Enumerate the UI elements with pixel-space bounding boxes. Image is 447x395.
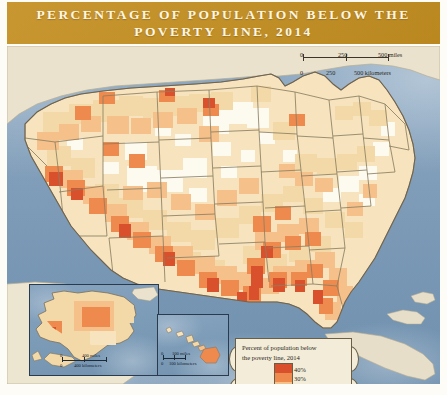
legend-label-30: 30% (294, 375, 306, 382)
scale-bar-hawaii: 0 100 miles 0 100 kilometers (161, 351, 207, 369)
legend-swatch-40 (275, 364, 292, 373)
scale-hawaii-km-0: 0 (161, 361, 163, 366)
scale-bar-main: 0 250 500 miles 0 250 500 kilometers (298, 51, 420, 81)
legend-title-line-1: Percent of population below (242, 343, 346, 353)
scale-hawaii-km-end: 100 kilometers (169, 361, 196, 366)
poverty-map-figure: PERCENTAGE OF POPULATION BELOW THE POVER… (0, 0, 447, 395)
legend-title: Percent of population below the poverty … (242, 343, 346, 362)
scale-miles-250: 250 (338, 51, 347, 58)
scale-alaska-km-0: 0 (60, 363, 62, 368)
scale-alaska-miles-end: 400 miles (82, 353, 100, 358)
scale-km-500: 500 kilometers (354, 69, 391, 76)
inset-hawaii[interactable]: 0 100 miles 0 100 kilometers (157, 314, 229, 376)
legend-labels: 40% 30% 20% 10% (294, 363, 334, 384)
map-legend: Percent of population below the poverty … (235, 338, 352, 384)
legend-swatch-20 (275, 382, 292, 384)
page-title-line-1: PERCENTAGE OF POPULATION BELOW THE (36, 6, 410, 23)
map-canvas[interactable]: 0 250 500 miles 0 250 500 kilometers (7, 46, 440, 384)
scale-bar-kilometers: 0 250 500 kilometers (298, 68, 420, 81)
page-title-line-2: POVERTY LINE, 2014 (134, 23, 312, 40)
scale-bar-miles: 0 250 500 miles (298, 51, 420, 64)
scale-miles-500: 500 miles (378, 51, 402, 58)
legend-swatch-30 (275, 373, 292, 382)
scale-miles-0: 0 (300, 51, 303, 58)
scale-alaska-km-end: 400 kilometers (74, 363, 101, 368)
legend-title-line-2: the poverty line, 2014 (242, 353, 346, 363)
map-title-bar: PERCENTAGE OF POPULATION BELOW THE POVER… (7, 2, 440, 44)
inset-alaska[interactable]: 0 400 miles 0 400 kilometers (29, 284, 159, 376)
scale-hawaii-miles-0: 0 (161, 351, 163, 356)
scale-km-0: 0 (300, 69, 303, 76)
legend-color-ramp (274, 363, 293, 384)
scale-bar-alaska: 0 400 miles 0 400 kilometers (60, 353, 122, 371)
scale-km-250: 250 (326, 69, 335, 76)
legend-label-40: 40% (294, 366, 306, 373)
scale-alaska-miles-0: 0 (60, 353, 62, 358)
scale-hawaii-miles-end: 100 miles (172, 351, 190, 356)
